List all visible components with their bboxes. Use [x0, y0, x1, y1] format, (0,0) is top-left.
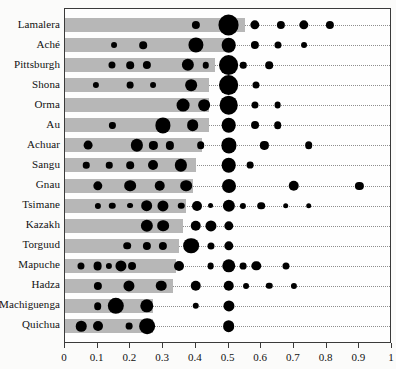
- category-label-achuar: Achuar: [27, 139, 60, 150]
- category-label-machiguenga: Machiguenga: [0, 299, 60, 310]
- offer-bubble: [260, 141, 268, 149]
- category-label-kazakh: Kazakh: [26, 219, 60, 230]
- offer-bubble: [148, 160, 158, 170]
- offer-bubble: [224, 241, 233, 250]
- axis-tick-mark: [358, 343, 359, 348]
- offer-bubble: [127, 162, 135, 170]
- offer-bubble: [93, 321, 103, 331]
- offer-bubble: [208, 203, 214, 209]
- axis-tick-label: 0.1: [90, 352, 104, 363]
- offer-bubble: [218, 15, 239, 36]
- offer-bubble: [291, 283, 297, 289]
- offer-bubble: [266, 283, 272, 289]
- category-label-orma: Orma: [35, 99, 60, 110]
- offer-bubble: [223, 320, 235, 332]
- offer-bubble: [94, 302, 102, 310]
- offer-bubble: [219, 75, 239, 95]
- offer-bubble: [299, 20, 308, 29]
- offer-bubble: [198, 99, 210, 111]
- offer-bubble: [252, 261, 261, 270]
- axis-tick-mark: [162, 343, 163, 348]
- category-label-shona: Shona: [32, 79, 60, 90]
- category-label-gnau: Gnau: [36, 179, 60, 190]
- offer-bubble: [219, 96, 238, 115]
- axis-tick-label: 0.7: [286, 352, 300, 363]
- offer-bubble: [221, 38, 236, 53]
- category-label-sangu: Sangu: [32, 159, 60, 170]
- offer-bubble: [197, 142, 205, 150]
- offer-bubble: [219, 55, 239, 75]
- offer-bubble: [156, 281, 167, 292]
- offer-bubble: [192, 201, 202, 211]
- offer-bubble: [128, 262, 136, 270]
- offer-bubble: [139, 318, 155, 334]
- offer-bubble: [191, 220, 202, 231]
- offer-bubble: [180, 180, 192, 192]
- offer-bubble: [127, 82, 134, 89]
- category-label-torguud: Torguud: [22, 239, 60, 250]
- offer-bubble: [222, 199, 234, 211]
- offer-bubble: [157, 220, 169, 232]
- offer-bubble: [274, 122, 282, 130]
- category-label-lamalera: Lamalera: [18, 19, 60, 30]
- category-label-pittsburgh: Pittsburgh: [14, 59, 60, 70]
- offer-bubble: [207, 242, 214, 249]
- axis-tick-mark: [195, 343, 196, 348]
- axis-tick-mark: [391, 343, 392, 348]
- offer-bubble: [141, 200, 153, 212]
- axis-tick-label: 0.3: [155, 352, 169, 363]
- offer-bubble: [240, 62, 246, 68]
- offer-bubble: [223, 300, 234, 311]
- axis-tick-mark: [228, 343, 229, 348]
- offer-bubble: [155, 180, 166, 191]
- offer-bubble: [185, 79, 197, 91]
- offer-bubble: [305, 142, 313, 150]
- offer-bubble: [266, 61, 274, 69]
- category-label-quichua: Quichua: [22, 319, 60, 330]
- offer-bubble: [240, 262, 247, 269]
- offer-bubble: [78, 262, 85, 269]
- offer-bubble: [111, 42, 117, 48]
- offer-bubble: [76, 321, 87, 332]
- axis-tick-mark: [326, 343, 327, 348]
- offer-bubble: [140, 41, 148, 49]
- offer-bubble: [222, 259, 235, 272]
- offer-bubble: [251, 121, 259, 129]
- offer-bubble: [282, 262, 289, 269]
- offer-bubble: [83, 141, 92, 150]
- axis-tick-mark: [293, 343, 294, 348]
- offer-bubble: [174, 261, 184, 271]
- offer-bubble: [221, 179, 235, 193]
- offer-bubble: [193, 303, 199, 309]
- offer-bubble: [127, 203, 133, 209]
- axis-tick-label: 0: [61, 352, 67, 363]
- offer-bubble: [326, 21, 334, 29]
- offer-bubble: [109, 62, 116, 69]
- axis-tick-label: 0.6: [253, 352, 267, 363]
- offer-bubble: [191, 281, 202, 292]
- bubble-chart: LamaleraAchéPittsburghShonaOrmaAuAchuarS…: [0, 0, 396, 369]
- offer-bubble: [274, 102, 281, 109]
- category-label-tsimane: Tsimane: [22, 199, 60, 210]
- category-label-au: Au: [46, 119, 60, 130]
- offer-bubble: [301, 42, 307, 48]
- offer-bubble: [224, 221, 233, 230]
- offer-bubble: [253, 82, 260, 89]
- axis-tick-mark: [97, 343, 98, 348]
- offer-bubble: [93, 261, 102, 270]
- offer-bubble: [150, 82, 156, 88]
- offer-bubble: [127, 61, 135, 69]
- offer-bubble: [244, 283, 250, 289]
- offer-bubble: [240, 203, 246, 209]
- offer-bubble: [205, 220, 216, 231]
- offer-bubble: [176, 99, 189, 112]
- axis-tick-mark: [64, 343, 65, 348]
- offer-bubble: [355, 181, 363, 189]
- offer-bubble: [221, 118, 236, 133]
- axis-tick-label: 0.2: [123, 352, 137, 363]
- offer-bubble: [187, 120, 199, 132]
- offer-bubble: [221, 138, 236, 153]
- offer-bubble: [123, 242, 131, 250]
- offer-bubble: [221, 158, 236, 173]
- axis-tick-label: 0.5: [221, 352, 235, 363]
